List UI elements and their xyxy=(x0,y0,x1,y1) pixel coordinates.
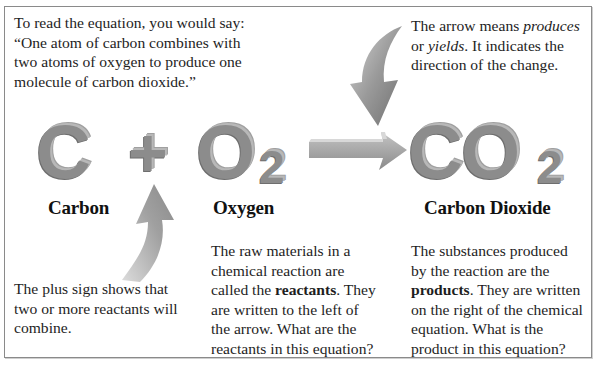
emphasis-produces: produces xyxy=(523,17,580,34)
callout-line: are written to the left of xyxy=(211,300,376,320)
callout-line: The arrow means produces xyxy=(411,16,580,36)
callout-line: products. They are written xyxy=(411,280,583,300)
products-callout: The substances produced by the reaction … xyxy=(411,241,583,359)
carbon-dioxide-label: Carbon Dioxide xyxy=(424,197,551,219)
callout-line: The substances produced xyxy=(411,241,583,261)
carbon-dioxide-subscript: 2 xyxy=(537,142,563,192)
text: . It indicates the xyxy=(464,37,564,54)
text: called the xyxy=(211,281,275,298)
callout-line: equation. What is the xyxy=(411,319,583,339)
callout-line: reactants in this equation? xyxy=(211,339,376,359)
callout-line: molecule of carbon dioxide.” xyxy=(14,72,245,92)
callout-line: by the reaction are the xyxy=(411,261,583,281)
text: . They xyxy=(336,281,376,298)
text: . They are written xyxy=(470,281,581,298)
callout-line: chemical reaction are xyxy=(211,261,376,281)
callout-line: combine. xyxy=(14,318,178,338)
callout-line: The raw materials in a xyxy=(211,241,376,261)
term-products: products xyxy=(411,281,470,298)
text: The arrow means xyxy=(411,17,523,34)
callout-line: product in this equation? xyxy=(411,339,583,359)
oxygen-subscript: 2 xyxy=(259,142,285,192)
carbon-label: Carbon xyxy=(48,197,109,219)
callout-line: on the right of the chemical xyxy=(411,300,583,320)
arrow-meaning-callout: The arrow means produces or yields. It i… xyxy=(411,16,580,75)
yields-arrow-icon xyxy=(305,130,410,170)
oxygen-label: Oxygen xyxy=(213,197,274,219)
callout-line: or yields. It indicates the xyxy=(411,36,580,56)
emphasis-yields: yields xyxy=(428,37,464,54)
equation-reading-callout: To read the equation, you would say: “On… xyxy=(14,13,245,91)
carbon-symbol: C xyxy=(36,112,91,192)
term-reactants: reactants xyxy=(275,281,336,298)
callout-line: two atoms of oxygen to produce one xyxy=(14,52,245,72)
callout-line: To read the equation, you would say: xyxy=(14,13,245,33)
callout-line: The plus sign shows that xyxy=(14,279,178,299)
plus-sign-callout: The plus sign shows that two or more rea… xyxy=(14,279,178,338)
oxygen-symbol: O xyxy=(196,112,255,192)
plus-sign: + xyxy=(128,116,168,188)
curved-arrow-up-icon xyxy=(118,182,188,282)
callout-line: called the reactants. They xyxy=(211,280,376,300)
callout-line: the arrow. What are the xyxy=(211,319,376,339)
callout-line: direction of the change. xyxy=(411,55,580,75)
callout-line: two or more reactants will xyxy=(14,299,178,319)
reactants-callout: The raw materials in a chemical reaction… xyxy=(211,241,376,359)
callout-line: “One atom of carbon combines with xyxy=(14,33,245,53)
carbon-dioxide-symbol: CO xyxy=(408,112,518,192)
